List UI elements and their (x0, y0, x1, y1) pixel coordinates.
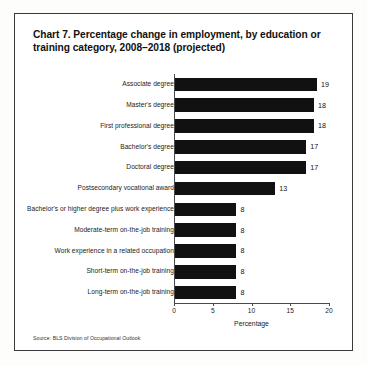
bar (174, 161, 306, 175)
bar-row: Bachelor's degree17 (15, 136, 353, 157)
bar-category-label: Associate degree (26, 80, 174, 89)
bar-row: Long-term on-the-job training8 (15, 282, 353, 303)
bar-value-label: 17 (310, 143, 318, 150)
chart-title: Chart 7. Percentage change in employment… (33, 28, 333, 55)
bar (174, 78, 317, 92)
x-tick-label: 0 (172, 307, 176, 314)
x-tick (174, 303, 175, 306)
bar-container: 13 (174, 178, 329, 199)
bar-value-label: 8 (241, 247, 245, 254)
bar-container: 18 (174, 116, 329, 137)
bar-value-label: 18 (318, 102, 326, 109)
bar-row: Short-term on-the-job training8 (15, 261, 353, 282)
bar-row: Master's degree18 (15, 95, 353, 116)
x-tick (290, 303, 291, 306)
bar-container: 8 (174, 241, 329, 262)
bar-category-label: Long-term on-the-job training (26, 288, 174, 297)
bar (174, 244, 236, 258)
bar-container: 8 (174, 282, 329, 303)
x-tick (213, 303, 214, 306)
bar-container: 8 (174, 199, 329, 220)
y-axis-line (174, 74, 175, 303)
bar-category-label: Moderate-term on-the-job training (26, 226, 174, 235)
bar-category-label: First professional degree (26, 122, 174, 131)
bar (174, 223, 236, 237)
bar (174, 98, 314, 112)
bar (174, 265, 236, 279)
bar-value-label: 8 (241, 268, 245, 275)
bar-category-label: Bachelor's degree (26, 143, 174, 152)
bar-row: Bachelor's or higher degree plus work ex… (15, 199, 353, 220)
bar-value-label: 19 (321, 81, 329, 88)
x-tick (252, 303, 253, 306)
bar-category-label: Short-term on-the-job training (26, 267, 174, 276)
bar-value-label: 8 (241, 227, 245, 234)
bar-value-label: 8 (241, 206, 245, 213)
bar-value-label: 17 (310, 164, 318, 171)
bar (174, 203, 236, 217)
bar-container: 8 (174, 220, 329, 241)
bar-container: 17 (174, 136, 329, 157)
plot-area: Associate degree19Master's degree18First… (15, 74, 353, 312)
bar-container: 17 (174, 157, 329, 178)
x-axis-title: Percentage (174, 320, 329, 327)
x-tick-label: 20 (325, 307, 332, 314)
chart-frame: Chart 7. Percentage change in employment… (14, 13, 353, 351)
bar-row: Moderate-term on-the-job training8 (15, 220, 353, 241)
bar-rows: Associate degree19Master's degree18First… (15, 74, 353, 303)
bar-row: Doctoral degree17 (15, 157, 353, 178)
bar (174, 119, 314, 133)
bar-row: Work experience in a related occupation8 (15, 241, 353, 262)
chart-page: Chart 7. Percentage change in employment… (0, 0, 367, 366)
bar-category-label: Postsecondary vocational award (26, 184, 174, 193)
bar-row: Postsecondary vocational award13 (15, 178, 353, 199)
bar (174, 140, 306, 154)
x-tick (329, 303, 330, 306)
bar-container: 18 (174, 95, 329, 116)
bar-value-label: 18 (318, 122, 326, 129)
bar-category-label: Work experience in a related occupation (26, 247, 174, 256)
x-tick-label: 5 (211, 307, 215, 314)
bar-container: 19 (174, 74, 329, 95)
bar-value-label: 8 (241, 289, 245, 296)
bar-row: First professional degree18 (15, 116, 353, 137)
x-tick-label: 10 (248, 307, 255, 314)
bar-category-label: Bachelor's or higher degree plus work ex… (26, 205, 174, 214)
x-tick-label: 15 (287, 307, 294, 314)
bar-row: Associate degree19 (15, 74, 353, 95)
bar-category-label: Doctoral degree (26, 163, 174, 172)
bar (174, 286, 236, 300)
bar-category-label: Master's degree (26, 101, 174, 110)
source-note: Source: BLS Division of Occupational Out… (33, 335, 140, 341)
bar-container: 8 (174, 261, 329, 282)
bar (174, 182, 275, 196)
bar-value-label: 13 (279, 185, 287, 192)
